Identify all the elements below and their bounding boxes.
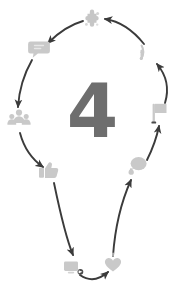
comment-bubble-icon <box>129 157 147 175</box>
puzzle-piece-icon <box>85 10 99 27</box>
rss-signal-icon <box>140 46 143 60</box>
flag-icon <box>151 104 166 124</box>
arrow-chat-to-users <box>18 60 32 107</box>
heart-icon <box>105 252 121 271</box>
diagram-canvas <box>0 0 181 290</box>
share-screen-icon <box>64 261 83 274</box>
arrow-users-to-thumbsup <box>20 133 43 167</box>
chat-bubble-icon <box>28 42 50 58</box>
arrow-flag-to-rss <box>157 64 167 103</box>
arrow-share-to-heart <box>80 272 108 279</box>
thumbs-up-icon <box>39 162 58 178</box>
arrow-rss-to-puzzle <box>105 19 144 44</box>
arrow-comment-to-flag <box>147 126 159 160</box>
arrow-puzzle-to-chat <box>48 21 83 43</box>
users-group-icon <box>7 110 30 125</box>
lightbulb-cycle-diagram: 4 <box>0 0 181 290</box>
arrow-heart-to-comment <box>113 180 131 256</box>
arrow-group <box>18 19 167 279</box>
arrow-thumbsup-to-share <box>54 183 73 255</box>
